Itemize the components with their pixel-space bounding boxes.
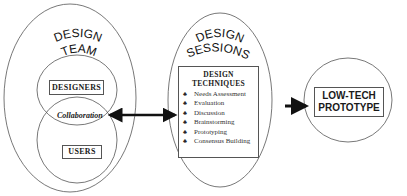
technique-label: Evaluation [194, 99, 224, 108]
prototype-line1: LOW-TECH [315, 90, 383, 102]
technique-label: Consensus Building [194, 137, 250, 146]
techniques-title-line1: DESIGN [179, 70, 258, 79]
technique-label: Discussion [194, 109, 225, 118]
club-bullet-icon: ♣ [183, 118, 194, 127]
users-circle [37, 97, 117, 183]
club-bullet-icon: ♣ [183, 90, 194, 99]
techniques-list: ♣Needs Assessment ♣Evaluation ♣Discussio… [179, 90, 258, 146]
techniques-title: DESIGN TECHNIQUES [179, 70, 258, 88]
design-sessions-title-line1: DESIGN [193, 26, 246, 46]
list-item: ♣Needs Assessment [183, 90, 258, 99]
design-sessions-title-line2: SESSIONS [184, 40, 252, 62]
club-bullet-icon: ♣ [183, 109, 194, 118]
collaboration-label: Collaboration [57, 111, 103, 120]
users-box: USERS [62, 145, 102, 159]
designers-label: DESIGNERS [52, 83, 101, 92]
club-bullet-icon: ♣ [183, 128, 194, 137]
list-item: ♣Discussion [183, 109, 258, 118]
list-item: ♣Consensus Building [183, 137, 258, 146]
club-bullet-icon: ♣ [183, 137, 194, 146]
list-item: ♣Evaluation [183, 99, 258, 108]
list-item: ♣Brainstorming [183, 118, 258, 127]
design-team-title-line1: DESIGN [52, 26, 104, 45]
club-bullet-icon: ♣ [183, 99, 194, 108]
users-label: USERS [68, 147, 95, 156]
techniques-title-line2: TECHNIQUES [179, 79, 258, 88]
prototype-line2: PROTOTYPE [315, 102, 383, 114]
technique-label: Needs Assessment [194, 90, 246, 99]
design-team-title-line2: TEAM [59, 41, 99, 59]
technique-label: Prototyping [194, 128, 227, 137]
low-tech-prototype-box: LOW-TECH PROTOTYPE [314, 87, 384, 117]
design-techniques-box: DESIGN TECHNIQUES ♣Needs Assessment ♣Eva… [178, 66, 259, 158]
designers-box: DESIGNERS [49, 80, 104, 95]
technique-label: Brainstorming [194, 118, 234, 127]
list-item: ♣Prototyping [183, 128, 258, 137]
